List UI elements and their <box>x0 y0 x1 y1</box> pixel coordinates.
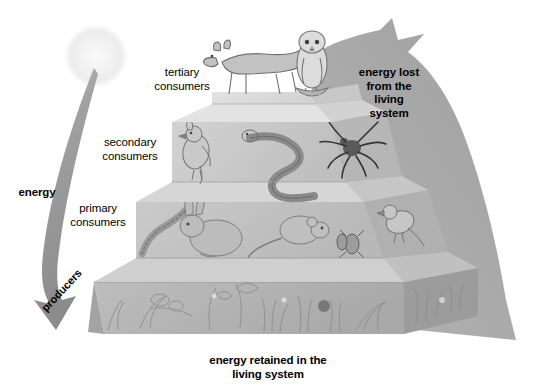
energy-pyramid-diagram: tertiary consumers secondary consumers p… <box>0 0 533 386</box>
label-energy: energy <box>4 186 70 200</box>
tertiary-front-face <box>212 92 316 104</box>
secondary-top-face <box>136 182 364 202</box>
primary-top-face <box>94 258 404 282</box>
label-primary-consumers: primary consumers <box>50 202 146 229</box>
tertiary-top-face <box>172 104 332 122</box>
pyramid <box>0 0 533 386</box>
owl-illustration <box>296 31 328 96</box>
pyramid-tier-primary-consumers[interactable] <box>94 190 478 282</box>
label-secondary-consumers: secondary consumers <box>78 136 182 163</box>
label-energy-lost: energy lost from the living system <box>346 66 432 120</box>
label-energy-retained: energy retained in the living system <box>152 354 384 381</box>
label-tertiary-consumers: tertiary consumers <box>136 66 228 93</box>
